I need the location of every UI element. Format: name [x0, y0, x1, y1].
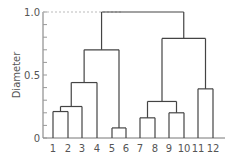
merge-link: [102, 12, 184, 50]
leaf-label: 1: [50, 143, 56, 154]
dendrogram-tree: [53, 12, 213, 138]
leaf-label: 12: [207, 143, 220, 154]
merge-link: [162, 38, 206, 101]
y-tick-label-0: 0: [34, 133, 40, 144]
y-tick-label-1: 1.0: [24, 7, 40, 18]
merge-link: [148, 101, 177, 117]
merge-link: [71, 83, 97, 138]
leaf-label: 11: [192, 143, 205, 154]
dendrogram-chart: 123456789101112 Diameter 1.0 0.5 0: [0, 0, 238, 157]
leaf-label: 8: [152, 143, 158, 154]
leaf-label: 10: [178, 143, 191, 154]
merge-link: [112, 128, 126, 138]
leaf-label: 3: [79, 143, 85, 154]
leaf-label: 4: [94, 143, 100, 154]
merge-link: [84, 50, 119, 128]
merge-link: [140, 118, 155, 138]
merge-link: [198, 89, 213, 138]
y-axis-label: Diameter: [11, 51, 22, 99]
leaf-label: 6: [123, 143, 129, 154]
leaf-label: 7: [137, 143, 143, 154]
leaf-label: 9: [166, 143, 172, 154]
leaf-labels: 123456789101112: [50, 143, 220, 154]
merge-link: [169, 113, 184, 138]
leaf-label: 2: [65, 143, 71, 154]
y-tick-label-05: 0.5: [24, 70, 40, 81]
leaf-label: 5: [109, 143, 115, 154]
merge-link: [53, 112, 68, 138]
